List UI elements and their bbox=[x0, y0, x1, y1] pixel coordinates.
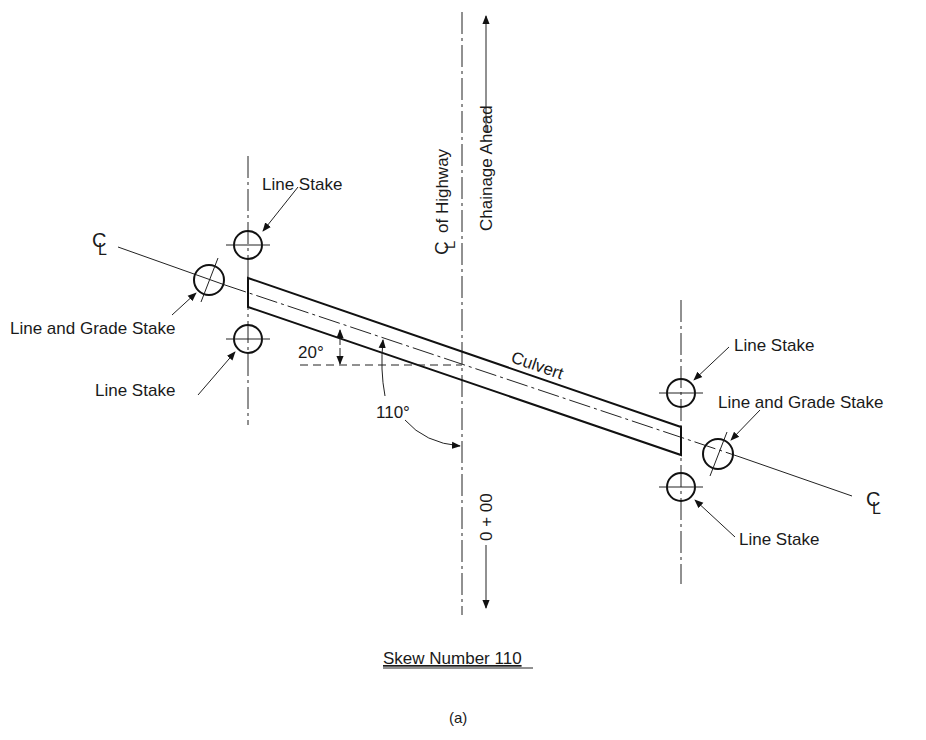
leader-right-top bbox=[694, 347, 729, 380]
label-left-bottom-stake: Line Stake bbox=[95, 381, 175, 400]
culvert-centerline bbox=[225, 285, 740, 457]
stake-left-grade bbox=[194, 258, 224, 302]
angle-110-arrow-right bbox=[405, 420, 460, 446]
angle-20-label: 20° bbox=[298, 343, 324, 362]
centerline-symbol-right: C L bbox=[866, 488, 881, 517]
leader-left-grade bbox=[172, 293, 196, 315]
label-left-top-stake: Line Stake bbox=[262, 175, 342, 194]
leader-right-bottom bbox=[695, 500, 735, 537]
highway-centerline-label: C L of Highway bbox=[431, 148, 458, 255]
svg-text:L: L bbox=[98, 241, 107, 258]
angle-110-label: 110° bbox=[376, 403, 410, 422]
svg-text:L: L bbox=[441, 241, 458, 249]
label-right-grade-stake: Line and Grade Stake bbox=[718, 393, 883, 412]
leader-left-bottom bbox=[198, 352, 235, 395]
stake-right-grade bbox=[703, 432, 733, 476]
angle-110-arrow-up bbox=[382, 340, 385, 396]
culvert-skew-diagram: Line Stake Line and Grade Stake Line Sta… bbox=[0, 0, 926, 740]
station-label: 0 + 00 bbox=[477, 493, 496, 541]
diagram-title: Skew Number 110 bbox=[383, 649, 522, 668]
culvert-centerline-right bbox=[740, 457, 852, 496]
label-right-bottom-stake: Line Stake bbox=[739, 530, 819, 549]
figure-caption: (a) bbox=[449, 709, 467, 726]
svg-text:of Highway: of Highway bbox=[433, 148, 452, 233]
label-left-grade-stake: Line and Grade Stake bbox=[10, 319, 175, 338]
leader-right-grade bbox=[731, 410, 760, 440]
label-right-top-stake: Line Stake bbox=[734, 336, 814, 355]
chainage-ahead-label: Chainage Ahead bbox=[477, 105, 496, 231]
centerline-symbol-left: C L bbox=[92, 229, 107, 258]
svg-text:L: L bbox=[872, 500, 881, 517]
culvert-body bbox=[248, 278, 681, 455]
